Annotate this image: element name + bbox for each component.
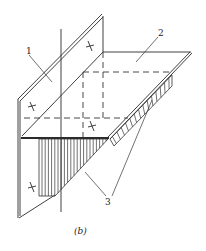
hatch-line	[126, 123, 129, 131]
weld-hatch-lower	[39, 139, 108, 196]
hatch-line	[156, 92, 157, 102]
hatch-line	[121, 127, 124, 135]
diagram-canvas: 1 2 3 (b)	[0, 0, 206, 251]
hatch-line	[139, 110, 141, 119]
hidden-lines	[24, 52, 172, 137]
cross-marks	[28, 41, 96, 192]
hatch-line	[130, 119, 133, 127]
label-vertical-plate: 1	[26, 46, 32, 56]
hatch-line	[160, 87, 161, 97]
hatch-line	[143, 105, 145, 114]
weld-hatch-edge	[110, 75, 172, 146]
figure-caption: (b)	[74, 226, 87, 236]
cross-mark	[28, 182, 36, 192]
hatch-line	[112, 136, 116, 143]
cross-mark	[88, 121, 96, 131]
cross-mark	[28, 102, 36, 111]
hatch-line	[117, 132, 121, 139]
cross-mark	[86, 41, 94, 51]
horizontal-plate	[21, 52, 192, 139]
hatch-line	[134, 114, 136, 123]
label-horizontal-plate: 2	[158, 28, 164, 38]
label-weld-seams: 3	[105, 197, 111, 207]
